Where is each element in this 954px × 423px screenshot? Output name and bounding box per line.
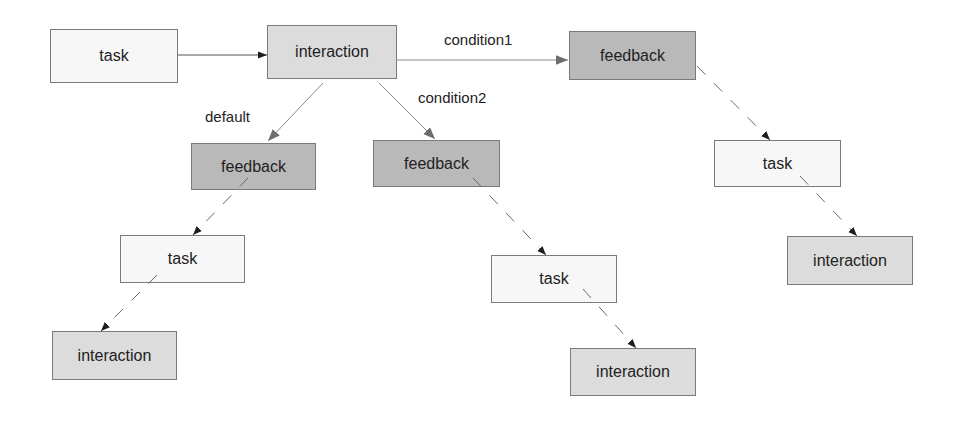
node-interaction-default: interaction [52,331,177,380]
flow-diagram: task interaction feedback feedback feedb… [0,0,954,423]
node-label: task [168,250,197,268]
edge-feedback1-to-task [697,66,770,140]
node-label: task [539,270,568,288]
node-label: feedback [600,47,665,65]
edge-feedback-condition2-to-task [473,178,546,255]
node-label: task [99,47,128,65]
node-task-default: task [120,235,245,283]
node-interaction-condition1: interaction [787,236,913,285]
node-task-condition2: task [491,255,617,303]
node-feedback-default: feedback [191,143,316,190]
node-feedback-condition1: feedback [569,31,696,80]
node-label: interaction [813,252,887,270]
node-feedback-condition2: feedback [373,140,500,187]
node-task-condition1: task [714,140,841,187]
node-label: interaction [596,363,670,381]
node-interaction-root: interaction [267,25,397,79]
edge-default-arrow [268,83,323,141]
node-label: interaction [295,43,369,61]
edge-label-default: default [205,108,250,125]
node-label: interaction [78,347,152,365]
node-label: feedback [221,158,286,176]
edge-task-default-to-interaction [101,275,157,331]
node-task-root: task [50,29,178,83]
node-interaction-condition2: interaction [570,348,696,396]
node-label: feedback [404,155,469,173]
node-label: task [763,155,792,173]
edge-label-condition1: condition1 [444,31,512,48]
edge-label-condition2: condition2 [418,89,486,106]
